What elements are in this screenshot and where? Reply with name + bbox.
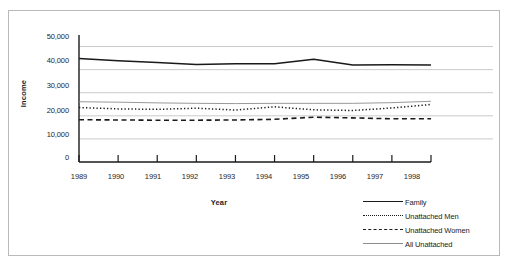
- legend-item-unattached-men: Unattached Men: [361, 209, 501, 223]
- chart-legend: Family Unattached Men Unattached Women A…: [361, 195, 501, 251]
- legend-item-family: Family: [361, 195, 501, 209]
- legend-item-unattached-women: Unattached Women: [361, 223, 501, 237]
- series-line-all-unattached: [79, 101, 431, 103]
- chart-series-group: [79, 59, 431, 121]
- series-line-unattached-men: [79, 105, 431, 111]
- legend-label-family: Family: [405, 198, 426, 207]
- legend-label-unattached-men: Unattached Men: [405, 212, 459, 221]
- chart-gridlines: [79, 47, 493, 139]
- series-line-family: [79, 59, 431, 65]
- legend-item-all-unattached: All Unattached: [361, 237, 501, 251]
- solid-line-swatch: [361, 197, 405, 207]
- legend-label-all-unattached: All Unattached: [405, 240, 452, 249]
- chart-figure-frame: Income Year 0 10,000 20,000 30,000 40,00…: [8, 10, 500, 256]
- chart-axes: [79, 35, 431, 162]
- chart-x-ticks: [79, 155, 431, 162]
- dotted-line-swatch: [361, 211, 405, 221]
- series-line-unattached-women: [79, 117, 431, 120]
- thin-line-swatch: [361, 239, 405, 249]
- dashed-line-swatch: [361, 225, 405, 235]
- legend-label-unattached-women: Unattached Women: [405, 226, 470, 235]
